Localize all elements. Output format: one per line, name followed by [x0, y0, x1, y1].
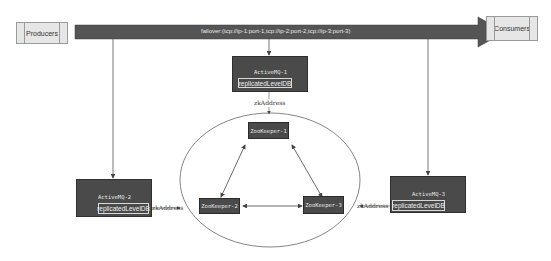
activemq-1-store: replicatedLevelDB	[238, 78, 292, 88]
consumers-label: Consumers	[494, 25, 530, 32]
zookeeper-1-node[interactable]: ZooKeeper-1	[248, 122, 289, 139]
activemq-2-store: replicatedLevelDB	[98, 203, 149, 214]
zookeeper-2-node[interactable]: ZooKeeper-2	[199, 198, 240, 214]
consumers-box[interactable]: Consumers	[486, 16, 538, 41]
zkaddress-label-top: zkAddress	[254, 99, 285, 106]
zookeeper-3-node[interactable]: ZooKeeper-3	[303, 196, 344, 214]
producers-label: Producers	[26, 30, 58, 37]
activemq-3-box[interactable]: ActiveMQ-3 replicatedLevelDB	[390, 176, 466, 213]
activemq-1-title: ActiveMQ-1	[254, 69, 287, 75]
activemq-3-title: ActiveMQ-3	[412, 191, 445, 197]
activemq-2-title: ActiveMQ-2	[98, 194, 131, 200]
producers-box[interactable]: Producers	[16, 22, 68, 44]
activemq-3-store: replicatedLevelDB	[392, 200, 445, 211]
failover-url-label: failover:(tcp://ip-1:port-1,tcp://ip-2:p…	[201, 28, 350, 34]
activemq-1-box[interactable]: ActiveMQ-1 replicatedLevelDB	[232, 56, 308, 92]
activemq-2-box[interactable]: ActiveMQ-2 replicatedLevelDB	[76, 179, 152, 217]
zkaddress-label-right: zkAddress	[357, 202, 388, 209]
zkaddress-label-left: zkAddress	[152, 204, 183, 211]
